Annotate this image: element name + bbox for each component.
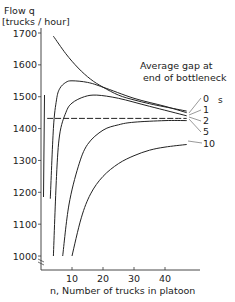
x-tick-label: 20 (97, 273, 109, 284)
y-tick-label: 1700 (13, 28, 37, 39)
y-tick-label: 1000 (13, 251, 37, 262)
curve-0-left-branch (44, 95, 45, 197)
curve-label-1: 1 (203, 104, 209, 115)
curve-label-0: 0 (203, 93, 209, 104)
y-tick-label: 1600 (13, 59, 37, 70)
curve-label-2: 2 (203, 115, 209, 126)
annotation-line2: end of bottleneck (143, 72, 227, 83)
y-tick-label: 1400 (13, 123, 37, 134)
curve-5 (63, 120, 187, 256)
y-tick-label: 1100 (13, 219, 37, 230)
curve-label-10: 10 (203, 138, 215, 149)
annotation-line1: Average gap at (140, 60, 213, 71)
curve-10 (72, 145, 187, 257)
chart: 10001100120013001400150016001700 1020304… (0, 0, 235, 302)
y-axis-label-line2: [trucks / hour] (2, 16, 70, 27)
y-tick-label: 1200 (13, 187, 37, 198)
leader-lines (188, 98, 202, 143)
y-axis-label-line1: Flow q (4, 5, 35, 16)
curve-label-5: 5 (203, 126, 209, 137)
x-axis-label: n, Number of trucks in platoon (50, 285, 195, 296)
y-tick-label: 1500 (13, 91, 37, 102)
x-tick-label: 40 (159, 273, 171, 284)
x-tick-label: 10 (66, 273, 78, 284)
curve-2 (53, 95, 186, 256)
y-tick-label: 1300 (13, 155, 37, 166)
x-tick-label: 30 (128, 273, 140, 284)
y-ticks: 10001100120013001400150016001700 (13, 28, 41, 262)
curve-label-unit: s (218, 95, 223, 105)
